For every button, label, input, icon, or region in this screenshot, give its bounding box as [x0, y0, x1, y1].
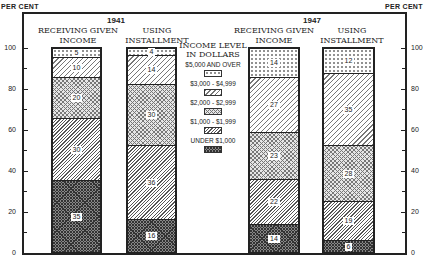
- tick-label-40: 40: [0, 167, 16, 174]
- legend-label-2000-2999: $2,000 - $2,999: [173, 99, 253, 106]
- segment-under-1000: 6: [324, 240, 373, 252]
- segment-1000-1999: 19: [324, 201, 373, 240]
- segment-under-1000: 16: [128, 219, 175, 252]
- right-tick-label-0: 0: [411, 249, 425, 256]
- segment-3000-4999: 10: [53, 57, 100, 77]
- bar-1947-income: 14 22 23 27 14: [248, 47, 300, 254]
- legend-swatch-dense-diagonal-icon: [204, 127, 222, 134]
- bar-1941-credit: 16 36 30 14 4: [126, 47, 177, 254]
- segment-1000-1999: 36: [128, 145, 175, 219]
- year-1941-header: 1941: [96, 16, 136, 25]
- segment-under-1000: 14: [250, 224, 298, 252]
- right-tick-label-80: 80: [411, 85, 425, 92]
- tick-label-60: 60: [0, 126, 16, 133]
- segment-5000-over: 12: [324, 49, 373, 73]
- bar-1947-credit: 6 19 28 35 12: [322, 47, 375, 254]
- legend-swatch-dark-crosshatch-icon: [204, 146, 222, 153]
- top-frame-line: [22, 12, 407, 14]
- segment-3000-4999: 27: [250, 77, 298, 132]
- legend-label-5000-over: $5,000 AND OVER: [173, 61, 253, 68]
- right-tick-label-20: 20: [411, 208, 425, 215]
- right-axis-title: PER CENT: [385, 3, 423, 10]
- legend-swatch-dots-icon: [204, 70, 222, 77]
- tick-label-80: 80: [0, 85, 16, 92]
- right-tick-label-60: 60: [411, 126, 425, 133]
- legend-swatch-crosshatch-icon: [204, 108, 222, 115]
- segment-2000-2999: 23: [250, 132, 298, 179]
- legend-label-1000-1999: $1,000 - $1,999: [173, 118, 253, 125]
- legend-label-under-1000: UNDER $1,000: [173, 137, 253, 144]
- segment-2000-2999: 20: [53, 77, 100, 118]
- segment-2000-2999: 30: [128, 84, 175, 145]
- segment-1000-1999: 30: [53, 118, 100, 180]
- bar-1941-income: 35 30 20 10 5: [51, 47, 102, 254]
- right-axis-line: [405, 12, 407, 254]
- segment-5000-over: 5: [53, 49, 100, 57]
- left-axis-title: PER CENT: [1, 3, 39, 10]
- segment-3000-4999: 35: [324, 73, 373, 145]
- year-1947-header: 1947: [292, 16, 332, 25]
- legend-title: INCOME LEVEL IN DOLLARS: [178, 41, 248, 59]
- segment-2000-2999: 28: [324, 145, 373, 201]
- legend-label-3000-4999: $3,000 - $4,999: [173, 80, 253, 87]
- segment-1000-1999: 22: [250, 179, 298, 224]
- right-tick-label-100: 100: [411, 44, 425, 51]
- segment-5000-over: 4: [128, 49, 175, 55]
- segment-under-1000: 35: [53, 180, 100, 252]
- tick-label-20: 20: [0, 208, 16, 215]
- tick-label-100: 100: [0, 44, 16, 51]
- legend-swatch-diagonal-icon: [204, 89, 222, 96]
- right-tick-label-40: 40: [411, 167, 425, 174]
- segment-5000-over: 14: [250, 49, 298, 77]
- segment-3000-4999: 14: [128, 55, 175, 84]
- tick-label-0: 0: [0, 249, 16, 256]
